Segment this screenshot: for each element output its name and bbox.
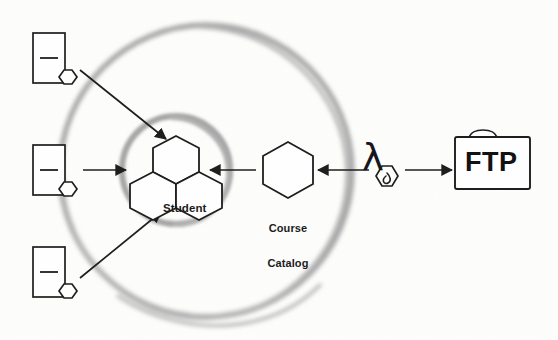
ftp-label: FTP: [465, 148, 518, 176]
lambda-symbol: λ: [362, 140, 384, 179]
source-node-2-hexagon-icon: [59, 182, 77, 196]
course-catalog-node[interactable]: [263, 142, 313, 198]
student-label: Student: [163, 202, 207, 214]
source-node-3-hexagon-icon: [59, 284, 77, 298]
diagram-canvas: λ Student Course Catalog FTP: [0, 0, 558, 340]
folder-tab-icon: [469, 130, 497, 137]
source-node-1-hexagon-icon: [59, 70, 77, 84]
source-node-2[interactable]: [33, 145, 77, 196]
source-node-3[interactable]: [33, 247, 77, 298]
course-catalog-label-line2: Catalog: [258, 258, 318, 270]
source-node-1[interactable]: [33, 33, 77, 84]
course-catalog-label: Course Catalog: [258, 200, 318, 292]
course-catalog-label-line1: Course: [258, 223, 318, 235]
course-catalog-hexagon-icon: [263, 142, 313, 198]
